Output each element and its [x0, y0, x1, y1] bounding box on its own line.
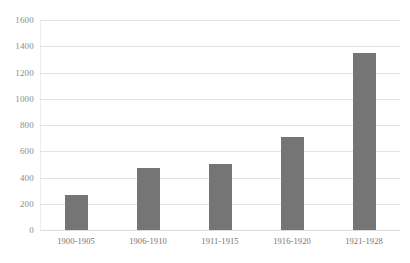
- plot-area: [40, 20, 400, 230]
- x-tick-label: 1921-1928: [345, 236, 383, 246]
- y-tick-label: 400: [20, 173, 34, 183]
- y-tick-label: 0: [29, 225, 34, 235]
- x-tick-label: 1900-1905: [57, 236, 95, 246]
- y-tick-label: 800: [20, 120, 34, 130]
- y-tick-label: 1400: [15, 41, 34, 51]
- y-tick-label: 1200: [15, 68, 34, 78]
- y-tick-label: 1000: [15, 94, 34, 104]
- y-tick-label: 1600: [15, 15, 34, 25]
- y-axis-tick-labels: 02004006008001000120014001600: [0, 20, 34, 230]
- gridline: [40, 230, 400, 231]
- gridline: [40, 151, 400, 152]
- gridline: [40, 73, 400, 74]
- x-tick-label: 1916-1920: [273, 236, 311, 246]
- bar[interactable]: [281, 137, 304, 230]
- bar[interactable]: [65, 195, 88, 230]
- bar[interactable]: [137, 168, 160, 230]
- bar[interactable]: [209, 164, 232, 230]
- y-tick-label: 600: [20, 146, 34, 156]
- gridline: [40, 125, 400, 126]
- bar[interactable]: [353, 53, 376, 230]
- x-tick-label: 1911-1915: [201, 236, 238, 246]
- gridline: [40, 20, 400, 21]
- gridline: [40, 99, 400, 100]
- y-tick-label: 200: [20, 199, 34, 209]
- bar-chart: 02004006008001000120014001600 1900-19051…: [0, 0, 410, 263]
- x-tick-label: 1906-1910: [129, 236, 167, 246]
- gridline: [40, 46, 400, 47]
